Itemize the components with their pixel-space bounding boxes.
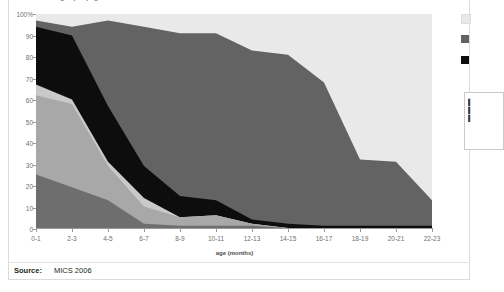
source-line: Source: MICS 2006 [14,266,92,275]
x-axis-tick-label: 6-7 [139,235,148,242]
y-axis-tick-label: 10 [26,204,33,211]
x-axis-tick-label: 22-23 [424,235,441,242]
x-axis-tick [180,229,181,232]
x-axis-tick-label: 8-9 [175,235,184,242]
note-line-1: ▌ [468,106,500,114]
y-axis-tick-label: 30 [26,161,33,168]
source-value: MICS 2006 [54,266,92,275]
x-axis-title: age (months) [0,250,469,256]
y-axis-tick-label: 70 [26,75,33,82]
chart-title-cropped: grap l p g [60,0,280,2]
y-axis-tick-label: 50 [26,118,33,125]
x-axis-tick-label: 10-11 [208,235,224,242]
x-axis-tick-label: 12-13 [244,235,261,242]
note-line-2: ▌ [468,114,500,122]
note-panel: ▌▌▌ [464,92,504,150]
legend-item-1[interactable] [461,35,501,43]
y-axis-tick-label: 0 [29,226,33,233]
x-axis-tick [324,229,325,232]
legend-item-2[interactable] [461,56,501,64]
x-axis-tick [288,229,289,232]
y-axis-tick-label: 90 [26,32,33,39]
y-axis-tick-label: 100% [16,11,33,18]
x-axis-tick-label: 4-5 [103,235,112,242]
x-axis-tick [108,229,109,232]
y-axis-tick-label: 60 [26,97,33,104]
x-axis-tick-label: 16-17 [316,235,333,242]
y-axis-tick-label: 40 [26,140,33,147]
x-axis-tick [396,229,397,232]
x-axis-tick [252,229,253,232]
x-axis-tick [432,229,433,232]
x-axis-tick-label: 2-3 [67,235,76,242]
x-axis-tick [72,229,73,232]
y-axis: 100%9080706050403020100 [0,14,33,229]
stacked-area-series [36,14,432,228]
y-axis-tick-label: 20 [26,183,33,190]
x-axis-tick [144,229,145,232]
y-axis-tick-label: 80 [26,54,33,61]
x-axis-tick-label: 18-19 [352,235,369,242]
source-divider [8,262,470,263]
legend-item-0[interactable] [461,14,501,22]
legend-swatch-black [461,56,469,64]
note-line-0: ▌ [468,98,500,106]
x-axis-tick [36,229,37,232]
x-axis-tick-label: 20-21 [388,235,405,242]
source-label: Source: [14,266,42,275]
x-axis-tick-label: 0-1 [31,235,40,242]
x-axis-tick [216,229,217,232]
x-axis-tick [360,229,361,232]
plot-area [36,14,432,228]
x-axis-tick-label: 14-15 [280,235,297,242]
legend-swatch-gray [461,35,469,43]
chart-legend [461,14,501,77]
legend-swatch-light [461,14,471,24]
